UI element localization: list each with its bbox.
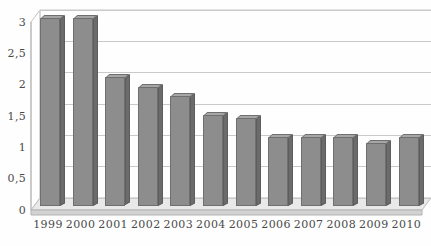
bar-side-face	[321, 134, 326, 206]
bar-front-face	[40, 18, 60, 206]
bar	[73, 18, 93, 206]
bar-front-face	[236, 118, 256, 206]
x-tick-label: 2002	[131, 218, 161, 231]
x-tick-label: 2004	[196, 218, 226, 231]
bar	[40, 18, 60, 206]
bar	[301, 137, 321, 206]
x-tick-label: 2009	[359, 218, 389, 231]
bar-front-face	[105, 77, 125, 205]
bar-top-face	[399, 134, 423, 138]
bar-top-face	[301, 134, 325, 138]
bar	[366, 143, 386, 206]
bar	[203, 115, 223, 206]
bar-side-face	[93, 15, 98, 206]
bar	[170, 96, 190, 206]
x-tick-label: 2007	[294, 218, 324, 231]
bar-side-face	[256, 115, 261, 205]
bar-front-face	[366, 143, 386, 206]
bar	[268, 137, 288, 206]
x-tick-label: 2008	[326, 218, 356, 231]
bar-side-face	[353, 134, 358, 206]
bar-chart: 3 2,5 2 1,5 1 0,5 0 19992000200120022003…	[0, 0, 431, 246]
bar-side-face	[223, 112, 228, 206]
x-tick-label: 2005	[229, 218, 259, 231]
bar-side-face	[60, 15, 65, 206]
bar-side-face	[419, 134, 424, 206]
bar-front-face	[138, 87, 158, 206]
bar-top-face	[73, 15, 97, 19]
bar	[105, 77, 125, 205]
bar	[333, 137, 353, 206]
bar	[236, 118, 256, 206]
bar-side-face	[288, 134, 293, 206]
x-axis: 1999200020012002200320042005200620072008…	[0, 216, 431, 246]
bar	[399, 137, 419, 206]
bar-side-face	[386, 140, 391, 205]
x-tick-label: 2000	[66, 218, 96, 231]
bar-side-face	[158, 84, 163, 206]
x-tick-label: 1999	[33, 218, 63, 231]
x-tick-label: 2010	[392, 218, 422, 231]
x-tick-label: 2001	[98, 218, 128, 231]
bar-front-face	[333, 137, 353, 206]
x-tick-label: 2006	[261, 218, 291, 231]
x-tick-label: 2003	[164, 218, 194, 231]
bar-top-face	[138, 84, 162, 88]
bar-front-face	[203, 115, 223, 206]
bar	[138, 87, 158, 206]
bar-front-face	[73, 18, 93, 206]
bar-front-face	[301, 137, 321, 206]
bar-top-face	[236, 115, 260, 119]
bar-side-face	[125, 75, 130, 206]
bar-front-face	[268, 137, 288, 206]
bar-front-face	[399, 137, 419, 206]
bars-layer	[0, 0, 431, 246]
bar-front-face	[170, 96, 190, 206]
bar-side-face	[190, 93, 195, 205]
